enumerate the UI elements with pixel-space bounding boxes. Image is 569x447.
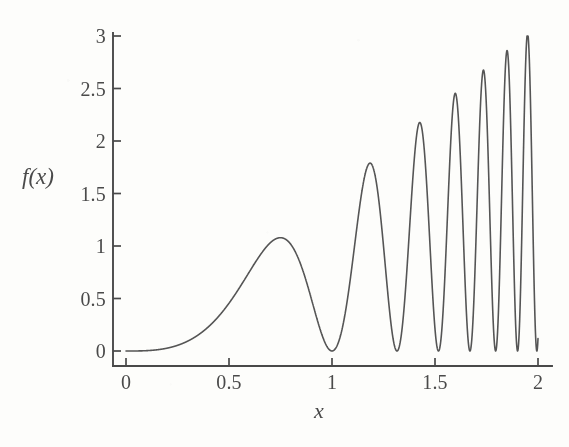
x-axis-ticks [126, 358, 538, 366]
x-tick-label-2: 1 [302, 372, 362, 392]
y-tick-label-6: 3 [60, 26, 106, 46]
x-axis-title: x [314, 400, 324, 422]
x-tick-label-4: 2 [508, 372, 568, 392]
x-tick-label-0: 0 [96, 372, 156, 392]
x-tick-label-3: 1.5 [405, 372, 465, 392]
y-tick-label-3: 1.5 [60, 184, 106, 204]
y-axis-ticks [113, 36, 121, 351]
axis-lines [113, 33, 552, 366]
plot-screenshot: 00.511.522.53 00.511.52 f(x) x [0, 0, 569, 447]
y-tick-label-0: 0 [60, 341, 106, 361]
y-tick-label-1: 0.5 [60, 289, 106, 309]
y-tick-label-2: 1 [60, 236, 106, 256]
x-tick-label-1: 0.5 [199, 372, 259, 392]
function-curve [126, 36, 538, 351]
y-tick-label-4: 2 [60, 131, 106, 151]
y-tick-label-5: 2.5 [60, 79, 106, 99]
y-axis-title: f(x) [22, 165, 54, 188]
chart-canvas [0, 0, 569, 447]
